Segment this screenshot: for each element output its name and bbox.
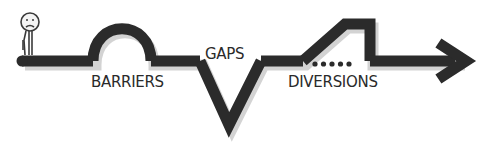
- gaps-label: GAPS: [205, 45, 244, 63]
- person-head: [21, 13, 39, 31]
- person-body: [24, 31, 26, 55]
- trail-dot: [312, 61, 317, 66]
- trail-dot: [321, 61, 326, 66]
- trail-dot: [329, 61, 334, 66]
- person-eye-right: [32, 19, 34, 21]
- trail-dot: [346, 61, 351, 66]
- journey-path: [22, 24, 455, 125]
- path-start-cap: [17, 56, 28, 67]
- person-eye-left: [26, 19, 28, 21]
- person-icon: [21, 13, 39, 55]
- diversions-label: DIVERSIONS: [288, 73, 378, 91]
- journey-diagram: BARRIERS GAPS DIVERSIONS: [0, 0, 480, 147]
- dotted-trail-icon: [312, 61, 351, 66]
- trail-dot: [338, 61, 343, 66]
- barriers-label: BARRIERS: [91, 73, 164, 91]
